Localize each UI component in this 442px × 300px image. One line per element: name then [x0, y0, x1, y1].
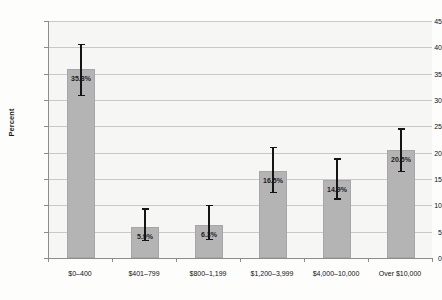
- y-tick-label-35: 35: [402, 70, 442, 77]
- error-bar-1: [144, 208, 146, 240]
- y-tick-mark-40: [44, 47, 48, 48]
- y-tick-mark-15: [44, 179, 48, 180]
- x-tick-label-0: $0–400: [68, 270, 91, 277]
- x-tick-label-3: $1,200–3,999: [251, 270, 294, 277]
- y-tick-label-45: 45: [402, 18, 442, 25]
- x-tick-label-2: $800–1,199: [190, 270, 227, 277]
- error-cap-2-high: [206, 205, 213, 207]
- y-tick-mark-20: [44, 153, 48, 154]
- y-tick-label-5: 5: [402, 228, 442, 235]
- error-cap-0-high: [78, 44, 85, 46]
- error-cap-3-low: [270, 192, 277, 194]
- plot-area: 35.8%5.9%6.3%16.5%14.9%20.5%: [48, 21, 432, 258]
- x-tick-label-1: $401–799: [128, 270, 159, 277]
- error-cap-1-high: [142, 208, 149, 210]
- y-tick-label-40: 40: [402, 44, 442, 51]
- error-bars-layer: [49, 21, 432, 258]
- x-tick-mark-1: [112, 258, 113, 262]
- error-cap-1-low: [142, 240, 149, 242]
- x-tick-mark-5: [368, 258, 369, 262]
- y-tick-mark-10: [44, 205, 48, 206]
- x-tick-mark-3: [240, 258, 241, 262]
- x-tick-label-4: $4,000–10,000: [313, 270, 360, 277]
- error-cap-0-low: [78, 95, 85, 97]
- y-tick-label-15: 15: [402, 176, 442, 183]
- error-bar-2: [208, 205, 210, 239]
- x-tick-mark-0: [48, 258, 49, 262]
- bar-chart: Percent 35.8%5.9%6.3%16.5%14.9%20.5% $0–…: [0, 0, 442, 300]
- error-cap-5-low: [398, 171, 405, 173]
- y-tick-mark-5: [44, 232, 48, 233]
- x-tick-mark-end: [432, 258, 433, 262]
- y-tick-label-25: 25: [402, 123, 442, 130]
- x-tick-label-5: Over $10,000: [379, 270, 421, 277]
- y-tick-label-30: 30: [402, 97, 442, 104]
- y-tick-mark-35: [44, 74, 48, 75]
- x-tick-mark-2: [176, 258, 177, 262]
- error-bar-0: [80, 44, 82, 95]
- error-cap-3-high: [270, 147, 277, 149]
- error-cap-4-high: [334, 158, 341, 160]
- y-tick-mark-30: [44, 100, 48, 101]
- error-cap-2-low: [206, 239, 213, 241]
- error-bar-3: [272, 147, 274, 192]
- y-tick-mark-45: [44, 21, 48, 22]
- y-tick-label-20: 20: [402, 149, 442, 156]
- y-tick-label-10: 10: [402, 202, 442, 209]
- x-tick-mark-4: [304, 258, 305, 262]
- error-cap-4-low: [334, 198, 341, 200]
- error-bar-4: [336, 158, 338, 199]
- y-tick-mark-25: [44, 126, 48, 127]
- y-axis: [0, 21, 48, 258]
- y-tick-label-0: 0: [402, 255, 442, 262]
